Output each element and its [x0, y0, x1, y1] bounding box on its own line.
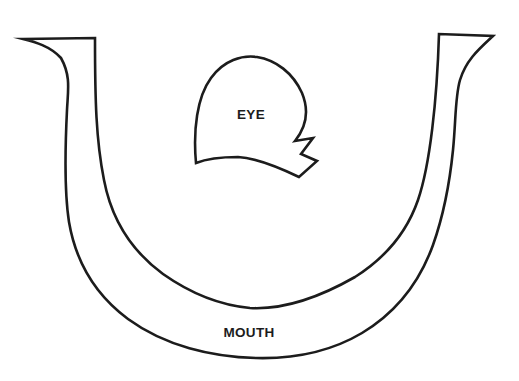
pattern-diagram: EYE MOUTH: [0, 0, 519, 381]
eye-label: EYE: [237, 107, 265, 122]
mouth-label: MOUTH: [224, 325, 275, 340]
pattern-page: EYE MOUTH: [0, 0, 519, 381]
mouth-shape-outline: [23, 34, 493, 358]
